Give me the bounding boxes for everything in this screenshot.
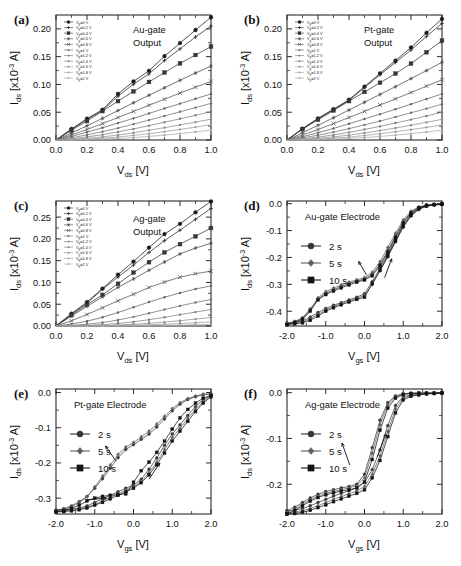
- panel-e-legend: 2 s5 s10 s: [70, 429, 116, 474]
- y-tick-label: -0.2: [266, 253, 282, 263]
- x-tick-label: 1.0: [397, 331, 410, 341]
- panel-a-annot-line1: Au-gate: [133, 24, 166, 35]
- x-tick-label: -2.0: [48, 519, 64, 529]
- panel-a: (a) 0.00.20.40.60.81.00.000.050.100.150.…: [0, 0, 231, 190]
- panel-b: (b) 0.00.20.40.60.81.00.000.050.100.150.…: [231, 0, 461, 190]
- data-markers: [70, 110, 212, 139]
- panel-a-annotation: Au-gate Output: [133, 24, 166, 48]
- panel-b-legend: Vg=0 VVg=0.2 VVg=0.4 VVg=0.6 VVg=0.8 VVg…: [295, 20, 323, 82]
- y-tick-label: -0.3: [266, 280, 282, 290]
- y-tick-label: 0.15: [264, 52, 282, 62]
- x-tick-label: 1.0: [205, 145, 218, 155]
- x-tick-label: 0.6: [374, 145, 387, 155]
- panel-f-label: (f): [244, 386, 257, 402]
- data-markers: [70, 308, 212, 327]
- x-tick-label: 0.6: [143, 145, 156, 155]
- panel-f-xaxis-title: Vgs [V]: [348, 538, 380, 553]
- panel-e-annotation: Pt-gate Electrode: [74, 399, 146, 410]
- panel-f-legend: 2 s5 s10 s: [301, 429, 347, 474]
- direction-arrow: [385, 259, 392, 278]
- panel-d: (d) -2.0-1.00.01.02.00.0-0.1-0.2-0.3-0.4…: [231, 186, 461, 376]
- legend-label: Vg=2 V: [76, 262, 89, 268]
- panel-d-xaxis-title: Vgs [V]: [348, 350, 380, 365]
- panel-b-yaxis-title: Ids [x10-3 A]: [238, 51, 254, 105]
- x-tick-label: 0.0: [127, 519, 140, 529]
- x-tick-label: 0.4: [343, 145, 356, 155]
- x-tick-label: 2.0: [205, 519, 218, 529]
- panel-e: (e) -2.0-1.00.01.02.00.0-0.1-0.2-0.3 2 s…: [0, 374, 231, 566]
- legend-label: Vg=2 V: [307, 76, 320, 82]
- panel-c-annot-line1: Ag-gate: [133, 213, 166, 224]
- y-tick-label: 0.00: [33, 135, 51, 145]
- panel-a-annot-line2: Output: [133, 37, 162, 48]
- y-tick-label: 0.05: [264, 108, 282, 118]
- panel-a-plot: 0.00.20.40.60.81.00.000.050.100.150.20 V…: [0, 0, 231, 190]
- panel-c-annotation: Ag-gate Output: [133, 213, 166, 237]
- x-tick-label: 2.0: [436, 331, 449, 341]
- panel-b-annot-line2: Output: [364, 37, 393, 48]
- x-tick-label: -2.0: [279, 519, 295, 529]
- panel-f-yaxis-title: Ids [x10-3 A]: [238, 425, 254, 479]
- panel-d-plot: -2.0-1.00.01.02.00.0-0.1-0.2-0.3-0.4 2 s…: [231, 186, 461, 376]
- x-tick-label: 0.6: [143, 331, 156, 341]
- y-tick-label: 0.0: [269, 199, 282, 209]
- y-tick-label: 0.15: [33, 256, 51, 266]
- y-tick-label: -0.1: [35, 423, 51, 433]
- legend-label: 2 s: [98, 429, 111, 440]
- x-tick-label: -1.0: [318, 331, 334, 341]
- x-tick-label: 0.8: [174, 331, 187, 341]
- x-tick-label: 1.0: [397, 519, 410, 529]
- data-markers: [70, 102, 212, 139]
- y-tick-label: 0.10: [33, 80, 51, 90]
- x-tick-label: 0.0: [50, 331, 63, 341]
- panel-f-axis-titles: Vgs [V] Ids [x10-3 A]: [238, 425, 380, 553]
- x-tick-label: 0.0: [50, 145, 63, 155]
- legend-label: 2 s: [329, 241, 342, 252]
- legend-label: Vg=2 V: [76, 76, 89, 82]
- x-tick-label: 0.4: [112, 145, 125, 155]
- panel-f-annot-title: Ag-gate Electrode: [305, 399, 380, 410]
- panel-f: (f) -2.0-1.00.01.02.00.0-0.1-0.2 2 s5 s1…: [231, 374, 461, 566]
- data-markers: [70, 269, 213, 322]
- y-tick-label: -0.1: [266, 226, 282, 236]
- panel-b-plot: 0.00.20.40.60.81.00.000.050.100.150.20 V…: [231, 0, 461, 190]
- legend-label: 10 s: [98, 463, 116, 474]
- x-tick-label: 0.8: [174, 145, 187, 155]
- data-markers: [55, 394, 213, 513]
- x-tick-label: 0.8: [405, 145, 418, 155]
- y-tick-label: -0.1: [266, 434, 282, 444]
- y-tick-label: -0.2: [35, 458, 51, 468]
- figure-root: (a) 0.00.20.40.60.81.00.000.050.100.150.…: [0, 0, 461, 566]
- panel-f-annotation: Ag-gate Electrode: [305, 399, 380, 410]
- panel-d-legend: 2 s5 s10 s: [301, 241, 347, 286]
- panel-e-label: (e): [14, 386, 28, 402]
- panel-d-annotation: Au-gate Electrode: [305, 211, 380, 222]
- panel-c-legend: Vg=0 VVg=0.2 VVg=0.4 VVg=0.6 VVg=0.8 VVg…: [64, 206, 92, 268]
- x-tick-label: 0.4: [112, 331, 125, 341]
- x-tick-label: 0.0: [358, 519, 371, 529]
- x-tick-label: 0.2: [81, 331, 94, 341]
- x-tick-label: 2.0: [436, 519, 449, 529]
- panel-e-axis-titles: Vgs [V] Ids [x10-3 A]: [7, 425, 149, 553]
- y-tick-label: 0.20: [33, 24, 51, 34]
- y-tick-label: 0.0: [269, 388, 282, 398]
- panel-b-annot-line1: Pt-gate: [364, 24, 394, 35]
- x-tick-label: 1.0: [205, 331, 218, 341]
- legend-label: 10 s: [329, 463, 347, 474]
- y-tick-label: 0.15: [33, 52, 51, 62]
- panel-d-annot-title: Au-gate Electrode: [305, 211, 380, 222]
- y-tick-label: 0.25: [33, 213, 51, 223]
- x-tick-label: 0.0: [358, 331, 371, 341]
- y-tick-label: 0.20: [264, 24, 282, 34]
- panel-c-annot-line2: Output: [133, 226, 162, 237]
- panel-d-axis-titles: Vgs [V] Ids [x10-3 A]: [238, 237, 380, 365]
- panel-f-plot: -2.0-1.00.01.02.00.0-0.1-0.2 2 s5 s10 s …: [231, 374, 461, 566]
- x-tick-label: 0.2: [81, 145, 94, 155]
- x-tick-label: -2.0: [279, 331, 295, 341]
- x-tick-label: -1.0: [318, 519, 334, 529]
- x-tick-label: 1.0: [436, 145, 449, 155]
- y-tick-label: 0.0: [38, 388, 51, 398]
- legend-label: 5 s: [329, 258, 342, 269]
- panel-e-plot: -2.0-1.00.01.02.00.0-0.1-0.2-0.3 2 s5 s1…: [0, 374, 231, 566]
- x-tick-label: 0.0: [281, 145, 294, 155]
